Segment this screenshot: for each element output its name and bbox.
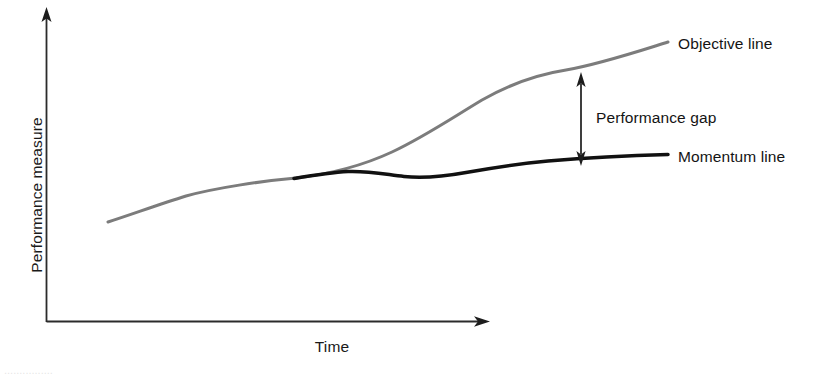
figure-root: Performance measure Time Objective line … [0,0,814,378]
momentum-line-label: Momentum line [678,148,785,166]
chart-canvas [0,0,814,378]
objective-line-series [108,42,668,222]
x-axis [47,316,491,326]
y-axis-title: Performance measure [28,65,46,325]
performance-gap-arrow-icon [576,72,585,166]
scan-artifact: ................ [4,364,134,376]
performance-gap-label: Performance gap [596,109,716,127]
objective-line-label: Objective line [678,35,772,53]
x-axis-title: Time [232,338,432,356]
